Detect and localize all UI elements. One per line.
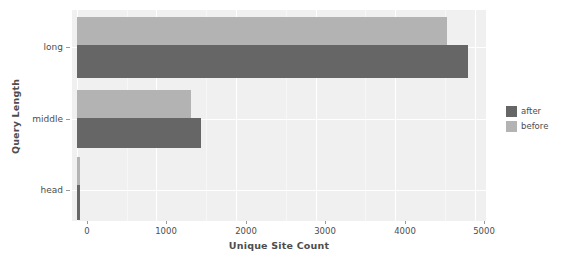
x-tick-2000: 2000	[226, 221, 266, 236]
legend-item-before[interactable]: before	[506, 119, 562, 133]
bar-chart-figure: Query Length long middle	[0, 0, 564, 266]
x-tick-3000: 3000	[305, 221, 345, 236]
x-tick-mark-icon	[246, 221, 247, 224]
bar-head-before	[77, 157, 81, 185]
y-tick-mark-icon	[66, 190, 70, 191]
y-tick-mark-icon	[66, 47, 70, 48]
legend-swatch-after	[506, 106, 517, 117]
y-tick-long: long	[0, 41, 72, 53]
x-tick-1000: 1000	[146, 221, 186, 236]
y-tick-middle-label: middle	[32, 114, 63, 124]
x-tick-0: 0	[67, 221, 107, 236]
x-tick-2000-label: 2000	[235, 226, 257, 236]
bar-middle-before	[77, 90, 191, 118]
legend-item-after[interactable]: after	[506, 104, 562, 118]
x-tick-mark-icon	[484, 221, 485, 224]
plot-area	[72, 10, 486, 221]
bar-long-before	[77, 17, 447, 45]
x-tick-5000: 5000	[464, 221, 504, 236]
y-tick-head-label: head	[41, 185, 63, 195]
legend-label-before: before	[521, 121, 548, 131]
x-tick-mark-icon	[325, 221, 326, 224]
x-tick-4000-label: 4000	[394, 226, 416, 236]
y-tick-mark-icon	[66, 119, 70, 120]
x-tick-1000-label: 1000	[155, 226, 177, 236]
bar-middle-after	[77, 118, 201, 148]
x-tick-mark-icon	[166, 221, 167, 224]
legend-label-after: after	[521, 106, 541, 116]
x-tick-3000-label: 3000	[314, 226, 336, 236]
x-axis-title: Unique Site Count	[72, 240, 486, 251]
x-tick-4000: 4000	[385, 221, 425, 236]
bar-long-after	[77, 45, 468, 78]
y-tick-head: head	[0, 184, 72, 196]
legend-swatch-before	[506, 121, 517, 132]
gridline-y-head	[72, 190, 486, 191]
x-tick-0-label: 0	[84, 226, 89, 236]
x-tick-mark-icon	[87, 221, 88, 224]
legend: after before	[506, 104, 562, 134]
bar-head-after	[77, 185, 81, 220]
y-tick-long-label: long	[44, 42, 63, 52]
y-tick-middle: middle	[0, 113, 72, 125]
x-tick-5000-label: 5000	[473, 226, 495, 236]
x-tick-mark-icon	[405, 221, 406, 224]
